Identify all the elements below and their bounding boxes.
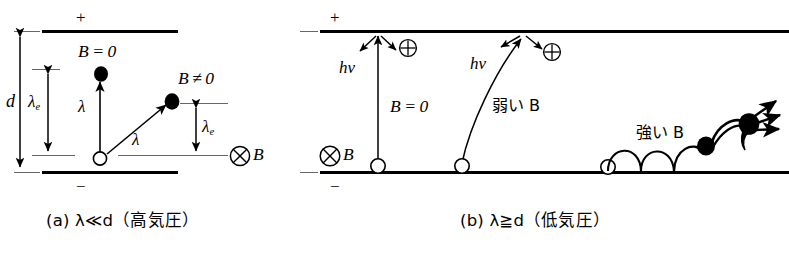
panel-b-b-field-label: B xyxy=(343,146,354,164)
panel-b-cycloid-hop-4b xyxy=(713,126,743,147)
panel-b-electron-start-2 xyxy=(455,159,469,173)
panel-a-cathode-sign: − xyxy=(76,178,86,195)
panel-a-electron-diagonal-filled xyxy=(165,93,180,109)
panel-b-photon-label-1: hν xyxy=(339,59,355,76)
panel-b-graphics xyxy=(300,32,789,175)
panel-a-lambda-e-right-subscript: e xyxy=(209,126,214,137)
panel-b-ion-icon-1 xyxy=(400,40,417,57)
panel-b-photon-arrow-2b xyxy=(526,36,542,49)
panel-b-avalanche-tail xyxy=(742,131,748,150)
figure-container: + − d λe λ λ λe B = 0 B ≠ 0 B + − B hν h… xyxy=(0,0,789,262)
panel-b-electron-start-1 xyxy=(371,159,385,173)
panel-a-lambda-diagonal-label: λ xyxy=(132,131,139,148)
panel-b-avalanche-arrow-2 xyxy=(757,115,780,123)
panel-b-cathode-sign: − xyxy=(330,178,340,195)
panel-b-caption: (b) λ≧d（低気圧） xyxy=(460,213,610,230)
panel-a-anode-sign: + xyxy=(76,9,86,26)
panel-b-b-weak-label: 弱い B xyxy=(492,98,540,114)
panel-a-lambda-vertical-label: λ xyxy=(78,98,85,115)
panel-b-electron-avalanche-blob xyxy=(739,113,760,135)
panel-a-caption: (a) λ≪d（高気圧） xyxy=(46,213,199,230)
panel-b-photon-arrow-2a xyxy=(501,36,520,47)
panel-a-graphics xyxy=(14,32,250,173)
panel-a-b-nonzero-label: B ≠ 0 xyxy=(178,70,214,88)
panel-a-gap-label: d xyxy=(6,92,15,110)
panel-b-cycloid-hop-2 xyxy=(641,151,674,171)
panel-a-electron-end-filled xyxy=(94,66,108,82)
panel-b-avalanche-arrow-3 xyxy=(756,129,779,130)
panel-b-photon-arrow-1b xyxy=(381,36,396,50)
panel-b-b-strong-label: 強い B xyxy=(636,125,684,141)
panel-a-b-field-label: B xyxy=(253,146,264,164)
panel-b-cycloid-hop-3 xyxy=(674,147,701,171)
panel-a-lambda-e-left-label: λe xyxy=(28,93,40,112)
panel-b-photon-label-2: hν xyxy=(470,55,486,72)
panel-b-b-zero-label: B = 0 xyxy=(390,98,428,116)
panel-b-avalanche-arrow-1 xyxy=(752,101,776,118)
panel-a-b-zero-label: B = 0 xyxy=(78,43,116,61)
panel-b-photon-arrow-1a xyxy=(360,36,376,51)
panel-a-b-into-page-icon xyxy=(230,146,249,165)
panel-b-ion-icon-2 xyxy=(544,44,561,61)
panel-a-lambda-e-right-label: λe xyxy=(202,118,214,137)
panel-a-electron-start-hollow xyxy=(93,152,106,165)
panel-b-anode-sign: + xyxy=(330,9,340,26)
panel-b-b-into-page-icon xyxy=(320,146,340,166)
panel-a-lambda-e-left-subscript: e xyxy=(35,101,40,112)
